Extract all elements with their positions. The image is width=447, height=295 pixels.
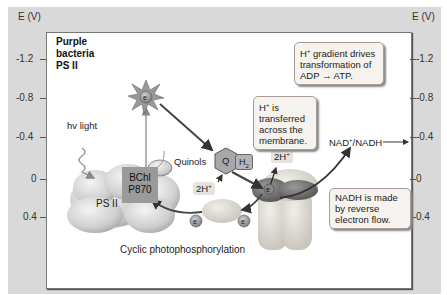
nadh-callout: NADH is made by reverse electron flow. xyxy=(329,188,411,229)
ps2-label: PS II xyxy=(96,198,118,209)
h2-box: H2 xyxy=(235,154,253,170)
electron-icon: e xyxy=(190,215,202,227)
quinol-to-complex-arrow xyxy=(232,172,262,188)
gradient-callout: H+ gradient drives transformation of ADP… xyxy=(294,42,384,85)
electron-icon: e xyxy=(238,215,250,227)
transfer-callout: H+ is transferred across the membrane. xyxy=(253,96,317,150)
two-h-plus-upper: 2H+ xyxy=(271,150,293,163)
svg-text:e: e xyxy=(266,186,270,193)
cyclic-photophosphorylation-label: Cyclic photophosphorylation xyxy=(120,244,245,255)
svg-text:e: e xyxy=(143,94,147,101)
two-h-plus-lower: 2H+ xyxy=(193,182,215,195)
svg-text:e: e xyxy=(241,218,245,225)
electron-carrier-shape xyxy=(202,199,242,223)
light-label: hv light xyxy=(67,120,97,131)
electron-transfer-arrow xyxy=(160,104,212,150)
quinols-label: Quinols xyxy=(174,156,206,167)
electron-icon: e xyxy=(264,184,274,194)
bchl-p870-box: BChl P870 xyxy=(122,167,158,203)
nad-nadh-label: NAD+/NADH xyxy=(329,137,382,148)
q-label: Q xyxy=(222,155,229,166)
excited-electron-star-icon: e xyxy=(128,80,164,114)
cytochrome-complex-shape xyxy=(252,169,318,250)
svg-text:e: e xyxy=(193,218,197,225)
